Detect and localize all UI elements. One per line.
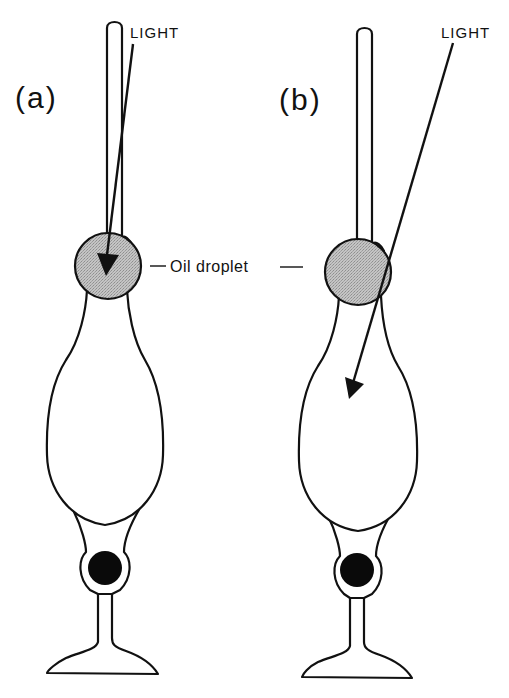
panel-b-label: (b) xyxy=(279,83,322,116)
cell-b-nucleus xyxy=(340,553,374,587)
cone-cell-diagram: (a) LIGHT Oil droplet (b) xyxy=(0,0,509,698)
panel-b: (b) LIGHT xyxy=(279,24,490,678)
cell-b-foot xyxy=(302,596,412,678)
panel-b-light-label: LIGHT xyxy=(441,24,490,41)
oil-droplet-annotation: Oil droplet xyxy=(150,258,303,275)
panel-a: (a) LIGHT xyxy=(15,22,179,674)
cell-a-outer-segment xyxy=(85,22,132,245)
panel-a-label: (a) xyxy=(15,81,58,114)
cell-a-foot xyxy=(47,592,158,674)
panel-a-light-label: LIGHT xyxy=(130,24,179,41)
cell-b-oil-droplet xyxy=(325,239,391,305)
cell-a-inner-segment xyxy=(47,290,163,525)
cell-b-inner-segment xyxy=(299,296,417,531)
cell-b-outer-segment xyxy=(335,28,384,251)
oil-droplet-label: Oil droplet xyxy=(170,258,248,275)
cell-a-nucleus xyxy=(88,551,122,585)
